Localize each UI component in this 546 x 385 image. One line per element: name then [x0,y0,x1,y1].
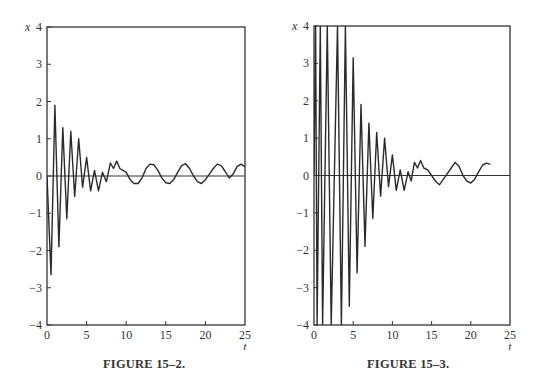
x-tick-label: 10 [386,328,398,342]
x-tick-label: 20 [465,328,477,342]
y-tick-label: −2 [296,243,309,257]
figure-15-3: 43210−1−2−3−4x0510152025t FIGURE 15–3. [0,0,546,385]
y-tick-label: −4 [296,318,309,332]
y-tick-label: 1 [303,131,309,145]
y-tick-label: −1 [296,206,309,220]
figure-caption: FIGURE 15–3. [367,357,449,372]
y-axis-label: x [291,19,298,33]
y-tick-label: −3 [296,281,309,295]
y-tick-label: 0 [303,169,309,183]
chart-15-3: 43210−1−2−3−4x0510152025t [0,0,546,350]
x-tick-label: 0 [311,328,317,342]
y-tick-label: 4 [303,19,309,33]
x-tick-label: 15 [426,328,438,342]
y-tick-label: 3 [303,56,309,70]
x-tick-label: 5 [350,328,356,342]
y-tick-label: 2 [303,94,309,108]
